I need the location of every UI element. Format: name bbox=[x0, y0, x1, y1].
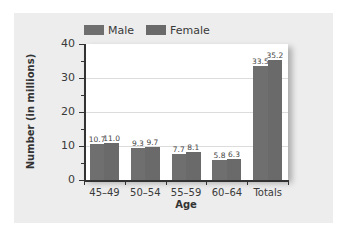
bar-label-female-0: 11.0 bbox=[102, 134, 122, 143]
y-tick-10 bbox=[79, 146, 84, 147]
x-tick bbox=[166, 180, 167, 185]
bar-male-2 bbox=[172, 154, 187, 180]
bar-label-female-4: 35.2 bbox=[265, 51, 285, 60]
y-tick-label-10: 10 bbox=[55, 140, 75, 152]
y-axis bbox=[84, 44, 86, 181]
bar-male-3 bbox=[212, 160, 227, 180]
x-tick-label-3: 60–64 bbox=[206, 187, 247, 198]
bar-female-3 bbox=[227, 159, 242, 180]
bar-male-0 bbox=[90, 144, 105, 180]
y-minor-tick bbox=[81, 129, 84, 130]
legend-label-female: Female bbox=[170, 24, 210, 37]
legend-item-female: Female bbox=[146, 24, 210, 37]
y-minor-tick bbox=[81, 163, 84, 164]
x-tick bbox=[247, 180, 248, 185]
x-tick-label-1: 50–54 bbox=[125, 187, 166, 198]
bar-male-1 bbox=[131, 148, 146, 180]
legend-label-male: Male bbox=[108, 24, 134, 37]
y-tick-label-20: 20 bbox=[55, 106, 75, 118]
bar-female-0 bbox=[104, 143, 119, 180]
y-tick-30 bbox=[79, 78, 84, 79]
bar-label-female-1: 9.7 bbox=[142, 138, 162, 147]
bar-female-4 bbox=[268, 60, 283, 180]
x-axis bbox=[84, 180, 289, 182]
y-tick-label-40: 40 bbox=[55, 38, 75, 50]
x-tick-label-4: Totals bbox=[247, 187, 288, 198]
bar-male-4 bbox=[253, 66, 268, 180]
y-tick-40 bbox=[79, 44, 84, 45]
x-tick bbox=[288, 180, 289, 185]
y-tick-label-30: 30 bbox=[55, 72, 75, 84]
legend-swatch-female bbox=[146, 25, 166, 35]
bar-label-female-3: 6.3 bbox=[224, 150, 244, 159]
legend: Male Female bbox=[84, 23, 210, 37]
x-tick-label-0: 45–49 bbox=[84, 187, 125, 198]
y-tick-label-0: 0 bbox=[55, 174, 75, 186]
x-tick bbox=[206, 180, 207, 185]
y-minor-tick bbox=[81, 95, 84, 96]
y-tick-20 bbox=[79, 112, 84, 113]
bar-female-2 bbox=[186, 152, 201, 180]
y-minor-tick bbox=[81, 61, 84, 62]
x-tick-label-2: 55–59 bbox=[166, 187, 207, 198]
legend-item-male: Male bbox=[84, 24, 134, 37]
x-axis-title: Age bbox=[84, 199, 288, 210]
x-tick bbox=[125, 180, 126, 185]
x-tick bbox=[84, 180, 85, 185]
legend-swatch-male bbox=[84, 25, 104, 35]
bar-female-1 bbox=[145, 147, 160, 180]
y-axis-title: Number (in millions) bbox=[25, 52, 36, 172]
bar-label-female-2: 8.1 bbox=[183, 143, 203, 152]
